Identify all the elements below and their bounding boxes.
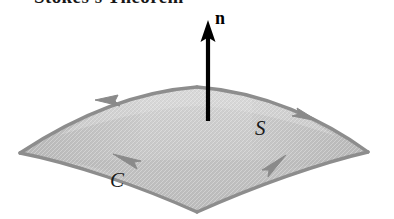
normal-vector-label: n	[215, 8, 225, 29]
surface-label: S	[255, 116, 266, 141]
figure-canvas	[0, 0, 394, 219]
surface-shading	[0, 0, 394, 219]
boundary-curve-label: C	[110, 168, 124, 193]
surface-texture	[0, 0, 394, 219]
upper-left-arrowhead	[95, 95, 120, 106]
surface-patch	[0, 0, 394, 219]
stokes-theorem-figure: Stokes's Theorem	[0, 0, 394, 219]
